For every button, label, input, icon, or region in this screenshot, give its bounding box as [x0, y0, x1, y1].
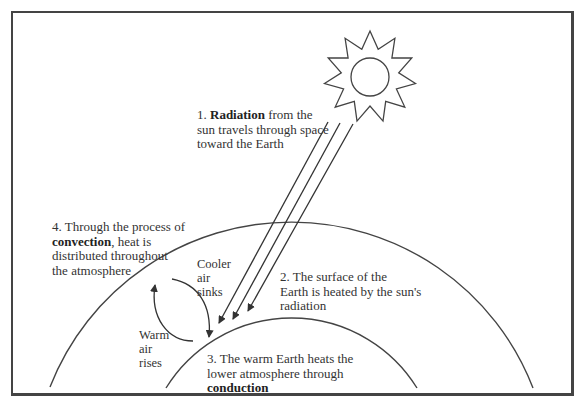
sun-icon: [325, 31, 416, 121]
label-text: from the: [265, 107, 313, 122]
term-conduction: conduction: [207, 380, 268, 395]
label-text: sinks: [197, 285, 231, 299]
term-convection: convection: [52, 234, 111, 249]
label-text: air: [139, 342, 169, 356]
label-text: lower atmosphere through: [207, 367, 353, 382]
label-radiation: 1. Radiation from the sun travels throug…: [197, 108, 329, 152]
term-radiation: Radiation: [210, 107, 265, 122]
label-text: Cooler: [197, 257, 231, 271]
label-text: radiation: [280, 299, 421, 314]
label-text: 2. The surface of the: [280, 270, 421, 285]
label-text: air: [197, 271, 231, 285]
label-text: 3. The warm Earth heats the: [207, 352, 353, 367]
label-text: Earth is heated by the sun's: [280, 285, 421, 300]
diagram-canvas: [0, 0, 584, 406]
label-text: , heat is: [111, 234, 151, 249]
label-text: sun travels through space: [197, 123, 329, 138]
label-conduction: 3. The warm Earth heats the lower atmosp…: [207, 352, 353, 396]
label-text: 4. Through the process of: [52, 220, 185, 235]
label-text: rises: [139, 356, 169, 370]
label-text: Warm: [139, 328, 169, 342]
label-text: distributed throughout: [52, 249, 185, 264]
label-surface-heated: 2. The surface of the Earth is heated by…: [280, 270, 421, 314]
label-warm-air-rises: Warm air rises: [139, 328, 169, 370]
label-cooler-air-sinks: Cooler air sinks: [197, 257, 231, 299]
label-text: toward the Earth: [197, 137, 329, 152]
step-number: 1.: [197, 107, 210, 122]
label-text: the atmosphere: [52, 264, 185, 279]
label-convection: 4. Through the process of convection, he…: [52, 220, 185, 278]
